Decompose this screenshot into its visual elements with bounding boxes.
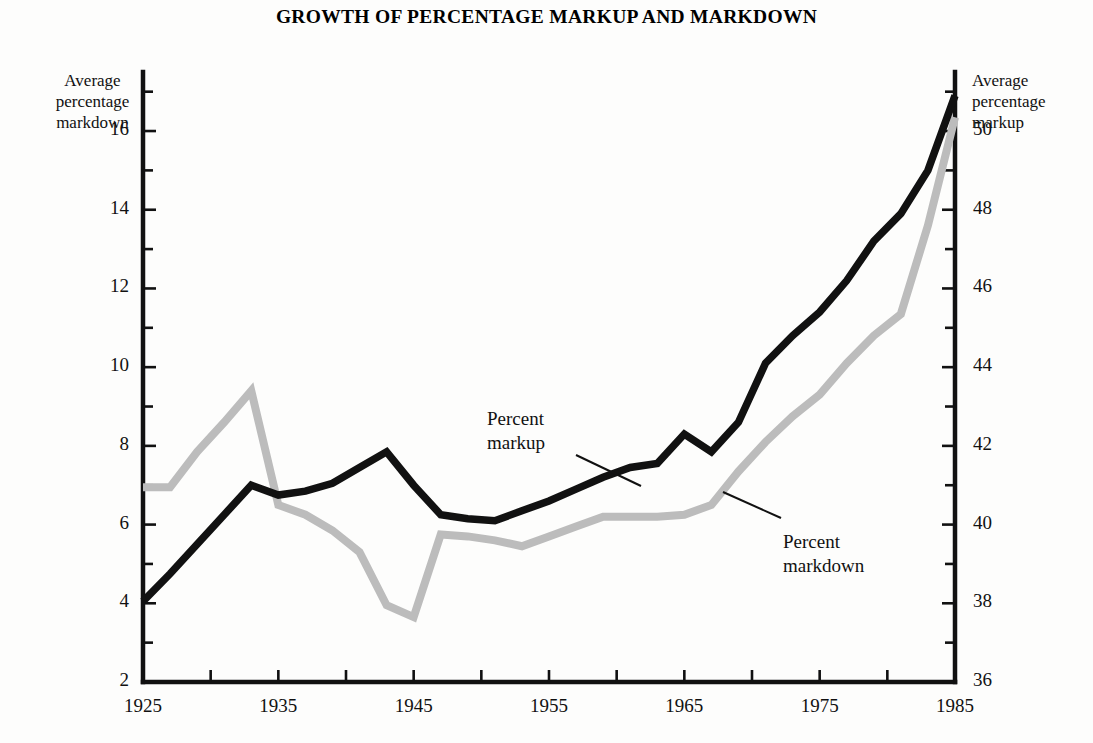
y-axis-label-right: 46 xyxy=(973,275,1015,297)
y-axis-label-right: 50 xyxy=(973,118,1015,140)
x-axis-label: 1985 xyxy=(920,695,990,717)
y-axis-label-right: 40 xyxy=(973,512,1015,534)
series-line-percent-markdown xyxy=(143,117,955,617)
y-axis-label-right: 38 xyxy=(973,590,1015,612)
y-axis-label-left: 2 xyxy=(87,669,129,691)
series-line-percent-markup xyxy=(143,96,955,602)
x-axis-label: 1945 xyxy=(379,695,449,717)
y-axis-label-left: 12 xyxy=(87,275,129,297)
leader-line-markdown xyxy=(723,492,781,518)
y-axis-label-left: 16 xyxy=(87,118,129,140)
y-axis-label-left: 8 xyxy=(87,433,129,455)
axis-ticks xyxy=(143,92,955,682)
y-axis-label-left: 4 xyxy=(87,590,129,612)
data-series xyxy=(143,96,955,617)
y-axis-label-left: 10 xyxy=(87,354,129,376)
y-axis-label-right: 42 xyxy=(973,433,1015,455)
chart-figure: GROWTH OF PERCENTAGE MARKUP AND MARKDOWN… xyxy=(0,0,1093,743)
x-axis-label: 1955 xyxy=(514,695,584,717)
y-axis-label-right: 36 xyxy=(973,669,1015,691)
y-axis-label-right: 48 xyxy=(973,197,1015,219)
y-axis-label-right: 44 xyxy=(973,354,1015,376)
x-axis-label: 1965 xyxy=(649,695,719,717)
x-axis-label: 1975 xyxy=(785,695,855,717)
plot-area xyxy=(0,0,1093,743)
y-axis-label-left: 14 xyxy=(87,197,129,219)
y-axis-label-left: 6 xyxy=(87,512,129,534)
x-axis-label: 1925 xyxy=(108,695,178,717)
x-axis-label: 1935 xyxy=(243,695,313,717)
